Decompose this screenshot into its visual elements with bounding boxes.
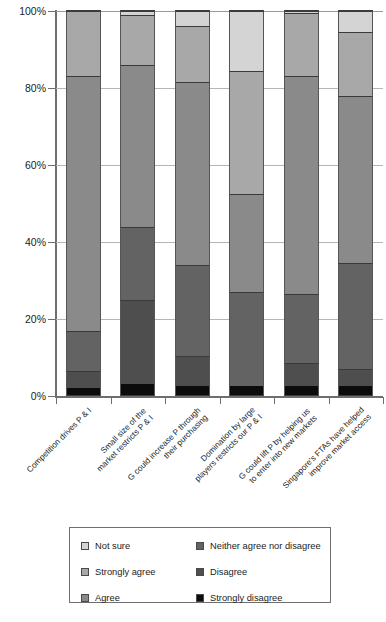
legend-label: Strongly disagree <box>210 593 282 603</box>
x-axis-category-labels: Competition drives P & ISmall size of th… <box>0 396 386 520</box>
bar-top-cap <box>338 10 373 11</box>
bar-segment <box>284 76 319 294</box>
plot-area <box>56 11 383 396</box>
y-tick-mark <box>48 11 56 12</box>
gridline <box>56 88 383 89</box>
legend-label: Not sure <box>95 541 130 551</box>
bar-segment <box>284 386 319 396</box>
bar-segment <box>175 26 210 82</box>
legend-item: Strongly agree <box>81 562 155 582</box>
legend-label: Disagree <box>210 567 247 577</box>
bar-segment <box>175 356 210 387</box>
bar-column <box>66 11 101 396</box>
legend-item: Strongly disagree <box>196 588 321 608</box>
bar-column <box>338 11 373 396</box>
bar-column <box>175 11 210 396</box>
gridline <box>56 242 383 243</box>
bar-top-cap <box>175 10 210 11</box>
bar-segment <box>66 371 101 388</box>
legend-item: Not sure <box>81 536 155 556</box>
bar-segment <box>229 194 264 292</box>
bar-top-cap <box>66 10 101 11</box>
bar-top-cap <box>284 10 319 11</box>
bar-segment <box>338 263 373 369</box>
legend-label: Neither agree nor disagree <box>210 541 321 551</box>
bar-segment <box>338 386 373 396</box>
bar-segment <box>66 331 101 371</box>
legend-swatch-icon <box>196 568 204 576</box>
gridline <box>56 11 383 12</box>
y-tick-mark <box>48 165 56 166</box>
bar-top-cap <box>229 10 264 11</box>
bar-column <box>120 11 155 396</box>
x-category-label-line: Competition drives P & I <box>25 406 94 475</box>
bar-segment <box>284 363 319 386</box>
y-tick-label: 40% <box>0 237 46 247</box>
bar-segment <box>66 388 101 396</box>
x-category-label-line: Small size of the <box>88 406 148 466</box>
bar-segment <box>284 294 319 363</box>
bar-segment <box>120 65 155 227</box>
x-category-label: Competition drives P & I <box>25 406 94 475</box>
legend-item: Disagree <box>196 562 321 582</box>
legend-column-right: Neither agree nor disagreeDisagreeStrong… <box>196 536 321 614</box>
y-tick-mark <box>48 242 56 243</box>
bar-segment <box>120 384 155 396</box>
bar-top-cap <box>120 10 155 11</box>
legend-swatch-icon <box>81 542 89 550</box>
bar-segment <box>229 71 264 194</box>
y-tick-mark <box>48 88 56 89</box>
bar-segment <box>175 11 210 26</box>
bar-segment <box>175 265 210 355</box>
bar-segment <box>120 227 155 300</box>
y-tick-label: 100% <box>0 6 46 16</box>
y-tick-label: 80% <box>0 83 46 93</box>
bar-segment <box>338 96 373 263</box>
bar-column <box>229 11 264 396</box>
bar-segment <box>66 11 101 76</box>
bar-column <box>284 11 319 396</box>
legend-swatch-icon <box>196 542 204 550</box>
legend-item: Neither agree nor disagree <box>196 536 321 556</box>
gridline <box>56 165 383 166</box>
legend-label: Agree <box>95 593 120 603</box>
legend-label: Strongly agree <box>95 567 155 577</box>
bar-segment <box>229 11 264 71</box>
bar-segment <box>175 386 210 396</box>
bar-segment <box>284 11 319 13</box>
y-tick-label: 60% <box>0 160 46 170</box>
bar-segment <box>229 292 264 386</box>
bar-segment <box>284 13 319 77</box>
bar-segment <box>120 300 155 385</box>
bar-segment <box>120 15 155 65</box>
bar-segment <box>229 386 264 396</box>
bar-segment <box>338 11 373 32</box>
bar-segment <box>120 11 155 15</box>
gridline <box>56 319 383 320</box>
bar-segment <box>338 32 373 96</box>
legend-swatch-icon <box>196 594 204 602</box>
y-tick-label: 20% <box>0 314 46 324</box>
legend-column-left: Not sureStrongly agreeAgree <box>81 536 155 614</box>
legend-swatch-icon <box>81 568 89 576</box>
legend-swatch-icon <box>81 594 89 602</box>
chart-legend: Not sureStrongly agreeAgree Neither agre… <box>69 527 331 603</box>
bar-segment <box>66 76 101 330</box>
legend-item: Agree <box>81 588 155 608</box>
stacked-bar-chart: 0%20%40%60%80%100% Competition drives P … <box>0 0 386 520</box>
y-tick-mark <box>48 319 56 320</box>
bar-segment <box>338 369 373 386</box>
bar-segment <box>175 82 210 265</box>
